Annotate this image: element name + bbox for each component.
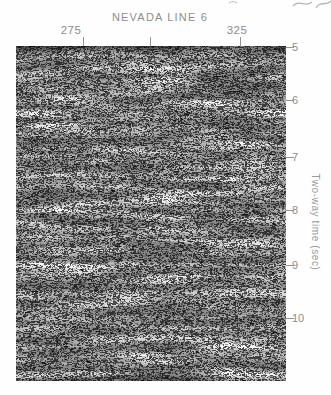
section-bottom-dark-band (16, 375, 286, 381)
right-axis-title-text: Two-way time (sec) (310, 174, 321, 271)
top-axis-tick-275 (83, 37, 84, 46)
right-axis-label-6: 6 (292, 94, 312, 107)
seismic-section-image (16, 46, 286, 381)
top-axis-label-275: 275 (51, 24, 91, 36)
top-axis-label-325: 325 (217, 24, 257, 36)
figure-page: NEVADA LINE 6 275 325 (0, 0, 331, 395)
right-axis-label-7: 7 (292, 151, 312, 164)
top-axis-tick-middle (150, 37, 151, 46)
top-axis-tick-325 (240, 37, 241, 46)
figure-title: NEVADA LINE 6 (0, 11, 320, 23)
seismic-noise-texture (16, 46, 286, 381)
right-axis-label-5: 5 (292, 41, 312, 54)
right-axis-label-10: 10 (292, 312, 312, 325)
section-top-dark-band (16, 46, 286, 52)
